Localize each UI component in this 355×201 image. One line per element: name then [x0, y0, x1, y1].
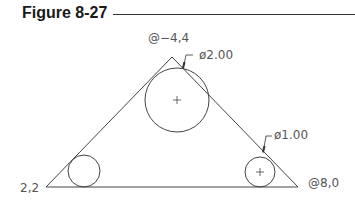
small-circle-leader: [263, 136, 272, 153]
small-circle-diameter-label: ø1.00: [274, 128, 308, 142]
large-circle-center-mark: [173, 96, 181, 104]
large-circle-leader: [183, 55, 193, 69]
apex-coordinate-label: @−4,4: [148, 31, 189, 45]
triangle: [46, 57, 298, 187]
right-circle-center-mark: [256, 168, 264, 176]
bottom-right-coordinate-label: @8,0: [308, 176, 339, 190]
large-circle-diameter-label: ø2.00: [199, 48, 233, 62]
left-small-circle: [68, 155, 100, 187]
bottom-left-coordinate-label: 2,2: [20, 181, 39, 195]
triangle-circles-diagram: @−4,4 ø2.00 ø1.00 2,2 @8,0: [0, 0, 355, 201]
